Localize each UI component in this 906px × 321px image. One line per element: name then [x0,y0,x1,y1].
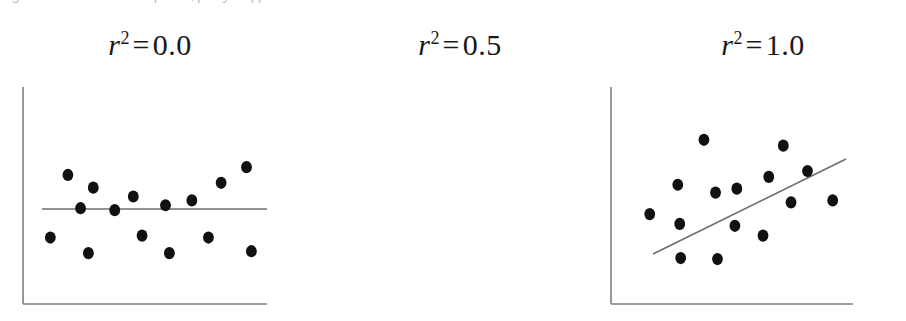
scatter-svg-r2-0 [14,82,276,318]
panel-title-equals: = [742,28,765,61]
data-point [137,229,148,241]
data-point [128,190,139,202]
data-point [63,169,74,181]
panel-title-equals: = [129,28,152,61]
data-point [216,177,227,189]
panel-title-value: 0.0 [153,28,192,61]
scatter-plot-area-r2-0 [14,82,276,318]
panel-title-variable: r [418,28,430,61]
data-point [88,182,99,194]
panel-title-variable: r [108,28,120,61]
data-point [45,231,56,243]
scatterplot-panel-r2-05: r2=0.5 [300,0,620,321]
panel-title-r2-0: r2=0.0 [0,28,300,62]
scatterplot-panel-r2-1: r2=1.0 [620,0,906,321]
data-point [203,231,214,243]
scatterplot-panel-r2-0: r2=0.0 [0,0,300,321]
panel-title-r2-05: r2=0.5 [300,28,620,62]
data-point [164,247,175,259]
data-points-r2-0 [45,161,257,259]
panel-title-r2-1: r2=1.0 [620,28,906,62]
data-point [83,247,94,259]
panel-title-equals: = [439,28,462,61]
data-point [160,199,171,211]
data-point [75,202,86,214]
data-point [246,245,257,257]
panel-title-variable: r [721,28,733,61]
data-point [241,161,252,173]
data-point [109,204,120,216]
axes-r2-0 [23,87,267,304]
panel-title-value: 1.0 [766,28,805,61]
data-point [186,194,197,206]
panel-title-value: 0.5 [463,28,502,61]
